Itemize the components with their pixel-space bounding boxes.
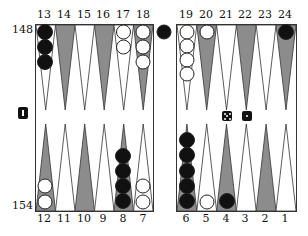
checker-white[interactable] [180, 53, 194, 67]
checker-black[interactable] [116, 149, 131, 164]
checker-white[interactable] [136, 25, 150, 39]
checker-white[interactable] [38, 179, 52, 193]
point-9[interactable] [95, 124, 115, 211]
checkers [38, 25, 294, 210]
checker-white[interactable] [136, 195, 150, 209]
checker-white[interactable] [200, 25, 214, 39]
point-10[interactable] [75, 124, 95, 211]
checker-white[interactable] [180, 67, 194, 81]
point-11[interactable] [56, 124, 76, 211]
checker-white[interactable] [136, 40, 150, 54]
die-one-icon[interactable] [242, 111, 252, 121]
point-2[interactable] [256, 124, 276, 211]
checker-black[interactable] [220, 194, 235, 209]
cube-value-mark [22, 110, 24, 116]
checker-white[interactable] [180, 39, 194, 53]
checker-black[interactable] [116, 164, 131, 179]
point-1[interactable] [276, 124, 296, 211]
checker-white[interactable] [180, 25, 194, 39]
point-22[interactable] [236, 25, 256, 110]
board-graphics [0, 0, 308, 236]
checker-black[interactable] [38, 25, 53, 40]
checker-black[interactable] [180, 179, 195, 194]
checker-black[interactable] [180, 164, 195, 179]
point-15[interactable] [75, 25, 95, 110]
die-five-icon[interactable] [222, 111, 232, 121]
point-16[interactable] [95, 25, 115, 110]
checker-white[interactable] [38, 195, 52, 209]
points [36, 25, 296, 211]
checker-black[interactable] [116, 194, 131, 209]
checker-white[interactable] [117, 40, 131, 54]
doubling-cube-icon[interactable] [18, 107, 28, 119]
checker-black[interactable] [180, 148, 195, 163]
checker-black[interactable] [180, 194, 195, 209]
point-23[interactable] [256, 25, 276, 110]
point-3[interactable] [236, 124, 256, 211]
checker-black[interactable] [38, 40, 53, 55]
checker-black[interactable] [180, 133, 195, 148]
point-14[interactable] [56, 25, 76, 110]
checker-white[interactable] [136, 55, 150, 69]
checker-white[interactable] [117, 25, 131, 39]
checker-white[interactable] [200, 195, 214, 209]
checker-black[interactable] [116, 179, 131, 194]
checker-black[interactable] [38, 55, 53, 70]
checker-white[interactable] [136, 179, 150, 193]
checker-black-on-bar[interactable] [157, 25, 171, 39]
point-21[interactable] [217, 25, 237, 110]
checker-black[interactable] [279, 25, 294, 40]
